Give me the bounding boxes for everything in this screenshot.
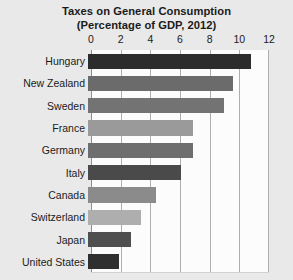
chart-title: Taxes on General Consumption (0, 5, 293, 19)
bar-track (88, 117, 293, 139)
bar (88, 232, 131, 247)
bar-row: Canada (0, 184, 293, 206)
x-axis-tick-label: 6 (177, 33, 183, 45)
bar-track (88, 162, 293, 184)
bar-category-label: Switzerland (0, 211, 88, 223)
bar-row: Germany (0, 139, 293, 161)
x-axis-tick-label: 0 (88, 33, 94, 45)
bar (88, 143, 193, 158)
bar-track (88, 139, 293, 161)
bar-track (88, 184, 293, 206)
bar-track (88, 228, 293, 250)
bar-track (88, 95, 293, 117)
bar-track (88, 251, 293, 273)
chart-subtitle: (Percentage of GDP, 2012) (0, 19, 293, 33)
bar (88, 254, 119, 269)
bar-row: United States (0, 251, 293, 273)
x-axis-tick-label: 10 (233, 33, 245, 45)
bar-category-label: United States (0, 256, 88, 268)
bar-category-label: Italy (0, 167, 88, 179)
x-axis-tick-label: 4 (147, 33, 153, 45)
bar-track (88, 72, 293, 94)
bar (88, 54, 251, 69)
chart-title-block: Taxes on General Consumption (Percentage… (0, 5, 293, 32)
bar-row: Italy (0, 162, 293, 184)
bar (88, 187, 156, 202)
bar-category-label: New Zealand (0, 77, 88, 89)
bar-category-label: Germany (0, 144, 88, 156)
bar-row: Sweden (0, 95, 293, 117)
bar (88, 210, 141, 225)
bar-category-label: Canada (0, 189, 88, 201)
bar (88, 76, 233, 91)
bar-chart-figure: Taxes on General Consumption (Percentage… (0, 0, 293, 280)
bar-row: France (0, 117, 293, 139)
bar-category-label: France (0, 122, 88, 134)
bar-category-label: Sweden (0, 100, 88, 112)
bar (88, 98, 224, 113)
bar (88, 120, 193, 135)
x-axis-tick-label: 12 (263, 33, 275, 45)
bar-row: Switzerland (0, 206, 293, 228)
bar-row: Japan (0, 228, 293, 250)
x-axis-tick-labels: 024681012 (91, 33, 269, 47)
x-axis-line (91, 272, 269, 273)
bar-row: Hungary (0, 50, 293, 72)
bar-rows: HungaryNew ZealandSwedenFranceGermanyIta… (0, 50, 293, 273)
bar-track (88, 50, 293, 72)
bar-track (88, 206, 293, 228)
x-axis-tick-label: 2 (118, 33, 124, 45)
bar-category-label: Japan (0, 234, 88, 246)
x-axis-tick-label: 8 (207, 33, 213, 45)
bar-row: New Zealand (0, 72, 293, 94)
bar (88, 165, 181, 180)
bar-category-label: Hungary (0, 55, 88, 67)
